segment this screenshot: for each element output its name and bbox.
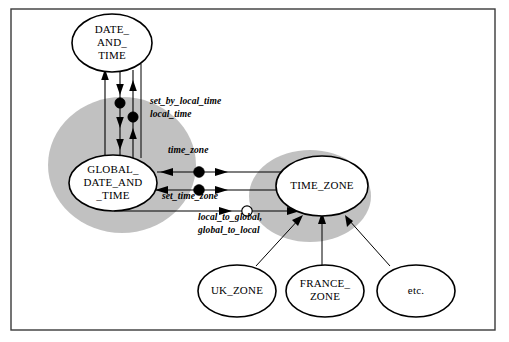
class-node-time_zone[interactable]: TIME_ZONE xyxy=(276,156,368,216)
class-node-date_and_time[interactable]: DATE_AND_TIME xyxy=(72,14,152,72)
class-label-date_and_time: DATE_ xyxy=(95,23,130,35)
operation-label-time_zone: time_zone xyxy=(168,145,209,155)
arrowhead-up-rail-3-top xyxy=(129,80,137,91)
class-node-uk_zone[interactable]: UK_ZONE xyxy=(198,265,276,317)
class-node-france_zone[interactable]: FRANCE_ZONE xyxy=(286,265,364,317)
operation-ball-time-zone xyxy=(194,167,205,178)
class-node-etc[interactable]: etc. xyxy=(377,265,455,317)
class-label-global_date_and_time: _TIME xyxy=(95,189,129,201)
arrowhead-down-rail-2-top xyxy=(116,84,124,95)
class-node-global_date_and_time[interactable]: GLOBAL_DATE_AND_TIME xyxy=(69,155,157,211)
arrowhead-right-time-zone xyxy=(215,168,228,176)
class-label-france_zone: FRANCE_ xyxy=(300,277,351,289)
operation-label-global_to_local: global_to_local xyxy=(197,225,260,235)
class-label-etc: etc. xyxy=(408,284,424,296)
diagram-canvas: DATE_AND_TIMEGLOBAL_DATE_AND_TIMETIME_ZO… xyxy=(0,0,509,342)
class-label-global_date_and_time: DATE_AND xyxy=(83,176,142,188)
operation-label-set_by_local_time: set_by_local_time xyxy=(149,96,222,106)
operation-ball-local-time xyxy=(128,112,138,122)
operation-ball-set-by-local-time xyxy=(115,98,125,108)
class-layer: DATE_AND_TIMEGLOBAL_DATE_AND_TIMETIME_ZO… xyxy=(69,14,455,317)
link-etc-to-time-zone xyxy=(348,219,390,266)
class-label-uk_zone: UK_ZONE xyxy=(211,284,263,296)
class-diagram-svg: DATE_AND_TIMEGLOBAL_DATE_AND_TIMETIME_ZO… xyxy=(0,0,509,342)
class-label-global_date_and_time: GLOBAL_ xyxy=(87,163,139,175)
operation-label-local_time: local_time xyxy=(150,109,192,119)
class-label-date_and_time: AND_ xyxy=(97,36,127,48)
class-label-time_zone: TIME_ZONE xyxy=(290,179,354,191)
class-label-date_and_time: TIME xyxy=(98,49,126,61)
operation-label-set_time_zone: set_time_zone xyxy=(161,191,219,201)
operation-label-local_to_global: local_to_global, xyxy=(198,212,262,222)
class-label-france_zone: ZONE xyxy=(310,290,340,302)
